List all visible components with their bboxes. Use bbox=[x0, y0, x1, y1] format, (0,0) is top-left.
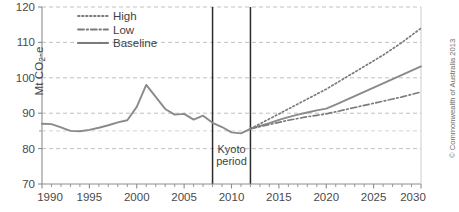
copyright-credit-text: © Commonwealth of Australia 2013 bbox=[448, 39, 457, 158]
chart-legend: HighLowBaseline bbox=[78, 10, 157, 49]
x-tick-label-2010: 2010 bbox=[219, 191, 245, 203]
y-axis-title-pre: Mt CO bbox=[33, 62, 45, 96]
x-tick-label-2030: 2030 bbox=[400, 191, 426, 203]
x-axis-tick-labels: 199019952000200520102015202020252030 bbox=[37, 191, 426, 203]
legend-label-low: Low bbox=[113, 24, 135, 36]
chart-annotations: Kyotoperiod bbox=[216, 143, 247, 167]
x-tick-label-2000: 2000 bbox=[124, 191, 150, 203]
series-line-low bbox=[250, 92, 421, 129]
series-line-historical bbox=[42, 85, 250, 134]
y-tick-label-80: 80 bbox=[22, 143, 35, 155]
y-axis-title: Mt CO2-e bbox=[29, 31, 47, 111]
y-axis-title-post: -e bbox=[33, 47, 45, 57]
y-axis-title-sub: 2 bbox=[37, 57, 47, 62]
kyoto-period-label-line1: Kyoto bbox=[217, 143, 245, 155]
legend-label-baseline: Baseline bbox=[113, 37, 157, 49]
legend-label-high: High bbox=[113, 10, 137, 22]
x-tick-label-1995: 1995 bbox=[77, 191, 103, 203]
x-tick-label-2020: 2020 bbox=[313, 191, 339, 203]
x-tick-label-2025: 2025 bbox=[361, 191, 387, 203]
x-tick-label-2005: 2005 bbox=[171, 191, 197, 203]
x-tick-label-1990: 1990 bbox=[37, 191, 63, 203]
series-line-baseline bbox=[250, 66, 421, 128]
y-axis-title-text: Mt CO2-e bbox=[33, 47, 45, 96]
y-tick-label-70: 70 bbox=[22, 178, 35, 190]
kyoto-period-label-line2: period bbox=[216, 155, 247, 167]
x-tick-label-2015: 2015 bbox=[266, 191, 292, 203]
copyright-credit: © Commonwealth of Australia 2013 bbox=[441, 28, 455, 158]
y-tick-label-120: 120 bbox=[16, 1, 35, 13]
